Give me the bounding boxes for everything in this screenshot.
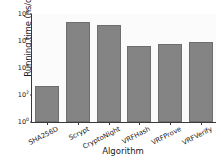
x-tick-mark xyxy=(47,122,48,125)
x-axis-title: Algorithm xyxy=(31,146,215,156)
bar-scrypt xyxy=(66,22,90,122)
bar-vrfprove xyxy=(158,44,182,122)
x-tick-label-vrfhash: VRFHash xyxy=(121,125,152,146)
bar-vrfverify xyxy=(189,42,213,122)
bar-vrfhash xyxy=(127,46,151,122)
plot-area: 100102104106108 SHA256DScryptCryptoNight… xyxy=(31,14,216,123)
bar-series xyxy=(32,14,216,122)
x-tick-mark xyxy=(201,122,202,125)
x-tick-label-sha256d: SHA256D xyxy=(28,125,60,147)
x-tick-label-vrfverify: VRFVerify xyxy=(181,125,214,147)
x-tick-mark xyxy=(170,122,171,125)
bar-chart-figure: Running time (ns/op) 100102104106108 SHA… xyxy=(0,0,221,161)
bar-sha256d xyxy=(35,86,59,122)
bar-cryptonight xyxy=(97,25,121,122)
x-tick-mark xyxy=(109,122,110,125)
x-tick-mark xyxy=(78,122,79,125)
x-tick-label-vrfprove: VRFProve xyxy=(150,125,182,147)
x-tick-mark xyxy=(139,122,140,125)
